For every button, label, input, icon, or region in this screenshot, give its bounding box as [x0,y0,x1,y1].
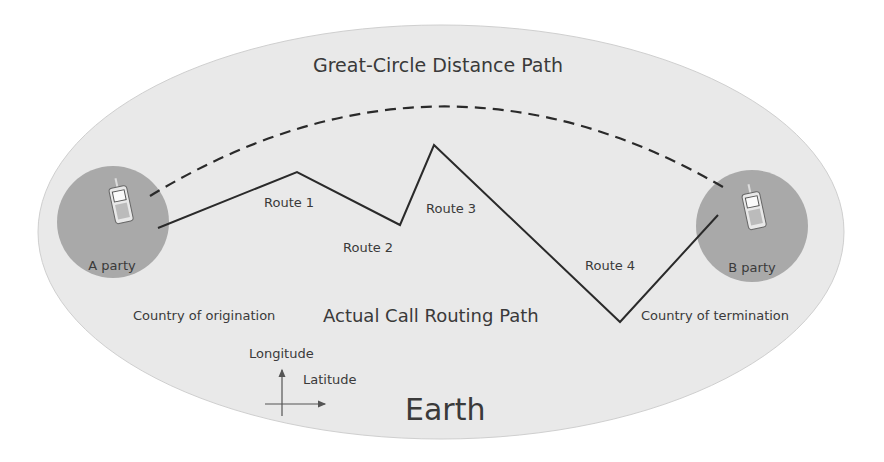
route-4-label: Route 4 [585,258,635,273]
diagram-canvas: Great-Circle Distance Path Route 1 Route… [0,0,884,462]
route-2-label: Route 2 [343,240,393,255]
route-3-label: Route 3 [426,201,476,216]
great-circle-title: Great-Circle Distance Path [313,54,563,76]
termination-country-label: Country of termination [641,308,789,323]
latitude-label: Latitude [303,372,357,387]
routing-path-label: Actual Call Routing Path [323,305,539,326]
route-1-label: Route 1 [264,195,314,210]
a-party-label: A party [88,258,136,273]
earth-label: Earth [405,392,485,427]
origin-country-label: Country of origination [133,308,275,323]
longitude-label: Longitude [249,346,314,361]
b-party-label: B party [728,260,776,275]
